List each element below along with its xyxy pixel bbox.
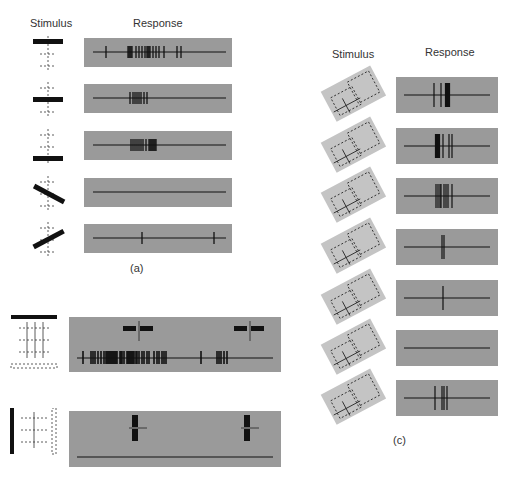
- fig-c-stimulus-corner-wedge-7-icon: [318, 368, 388, 426]
- fig-b-stimulus-vertical-bar-moving-right-icon: [9, 408, 59, 468]
- fig-a-stimulus-oblique-bar-up-icon: [28, 220, 68, 260]
- fig-a-response-trace: [84, 84, 232, 113]
- fig-c-response-trace: [396, 77, 498, 113]
- fig-c-stimulus-corner-wedge-1-icon: [318, 65, 388, 123]
- fig-a-response-trace: [84, 224, 232, 253]
- fig-b-stimulus-horizontal-bar-moving-down-icon: [9, 314, 59, 374]
- fig-c-stimulus-header: Stimulus: [332, 48, 374, 60]
- fig-a-stimulus-header: Stimulus: [30, 17, 72, 29]
- fig-a-stimulus-horizontal-bar-bottom-icon: [28, 127, 68, 167]
- fig-c-stimulus-corner-wedge-3-icon: [318, 166, 388, 224]
- fig-c-response-trace: [396, 380, 498, 416]
- fig-c-caption: (c): [393, 434, 406, 446]
- fig-c-response-trace: [396, 229, 498, 265]
- fig-a-response-header: Response: [133, 17, 183, 29]
- fig-c-stimulus-corner-wedge-4-icon: [318, 217, 388, 275]
- fig-a-stimulus-horizontal-bar-middle-icon: [28, 80, 68, 120]
- fig-b-response-trace: [69, 411, 281, 467]
- fig-a-response-trace: [84, 38, 232, 67]
- fig-b-response-trace: [69, 317, 281, 372]
- fig-c-response-trace: [396, 128, 498, 164]
- fig-a-caption: (a): [130, 262, 143, 274]
- fig-a-stimulus-horizontal-bar-top-icon: [28, 34, 68, 74]
- fig-a-stimulus-oblique-bar-down-icon: [28, 174, 68, 214]
- fig-c-response-header: Response: [425, 46, 475, 58]
- fig-a-response-trace: [84, 178, 232, 207]
- fig-c-response-trace: [396, 330, 498, 366]
- fig-c-response-trace: [396, 280, 498, 316]
- fig-a-response-trace: [84, 131, 232, 160]
- fig-c-response-trace: [396, 178, 498, 214]
